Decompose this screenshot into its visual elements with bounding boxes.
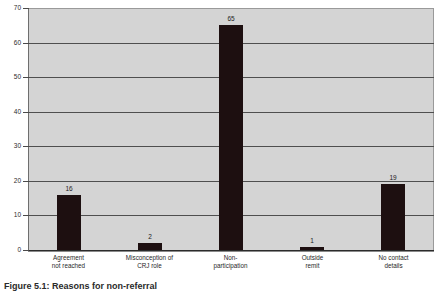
bar <box>381 184 405 250</box>
category-label: Agreement not reached <box>28 254 109 270</box>
bar-value-label: 1 <box>292 237 332 244</box>
y-tick-mark <box>23 146 29 147</box>
category-label: Non- participation <box>190 254 271 270</box>
bar <box>300 247 324 250</box>
bar <box>138 243 162 250</box>
y-tick-mark <box>23 250 29 251</box>
y-tick-mark <box>23 215 29 216</box>
y-tick-label: 60 <box>0 39 21 46</box>
y-tick-label: 40 <box>0 108 21 115</box>
figure-caption: Figure 5.1: Reasons for non-referral <box>4 281 441 291</box>
y-tick-label: 70 <box>0 4 21 11</box>
y-tick-label: 30 <box>0 142 21 149</box>
bar-chart-figure: 010203040506070 16265119 Agreement not r… <box>0 0 445 291</box>
bar <box>57 195 81 250</box>
bar <box>219 25 243 250</box>
y-tick-mark <box>23 181 29 182</box>
x-axis-shadow <box>28 251 434 252</box>
y-tick-label: 20 <box>0 177 21 184</box>
category-label: Outside remit <box>272 254 353 270</box>
category-label: No contact details <box>353 254 434 270</box>
category-label: Misconception of CRJ role <box>109 254 190 270</box>
y-tick-mark <box>23 8 29 9</box>
y-tick-mark <box>23 112 29 113</box>
y-tick-label: 50 <box>0 73 21 80</box>
bar-value-label: 16 <box>49 185 89 192</box>
y-tick-label: 0 <box>0 246 21 253</box>
y-tick-mark <box>23 43 29 44</box>
bar-value-label: 2 <box>130 233 170 240</box>
y-tick-label: 10 <box>0 211 21 218</box>
bar-value-label: 65 <box>211 15 251 22</box>
y-tick-mark <box>23 77 29 78</box>
bar-value-label: 19 <box>373 174 413 181</box>
